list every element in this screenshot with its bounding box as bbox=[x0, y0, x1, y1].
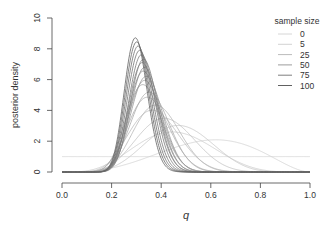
density-curve-n90 bbox=[62, 46, 310, 172]
posterior-density-chart: 0246810 0.00.20.40.60.81.0 posterior den… bbox=[0, 0, 325, 228]
y-tick-label: 4 bbox=[32, 108, 42, 113]
density-curve-n45 bbox=[62, 85, 310, 172]
x-tick-label: 0.2 bbox=[106, 190, 118, 200]
x-axis: 0.00.20.40.60.81.0 bbox=[56, 183, 316, 200]
y-tick-label: 2 bbox=[32, 139, 42, 144]
density-curve-n40 bbox=[62, 92, 310, 172]
legend-label: 5 bbox=[300, 39, 305, 49]
density-curve-n100 bbox=[62, 38, 310, 172]
x-tick-label: 0.4 bbox=[155, 190, 167, 200]
density-curve-n70 bbox=[62, 63, 310, 172]
legend-title: sample size bbox=[275, 16, 320, 26]
density-curve-n25 bbox=[62, 110, 310, 172]
legend-label: 0 bbox=[300, 29, 305, 39]
y-tick-label: 6 bbox=[32, 77, 42, 82]
density-curve-n35 bbox=[62, 97, 310, 172]
y-axis-title: posterior density bbox=[10, 61, 20, 128]
density-curve-n30 bbox=[62, 105, 310, 172]
density-curve-n75 bbox=[62, 59, 310, 172]
density-curve-n85 bbox=[62, 50, 310, 172]
legend: sample size 05255075100 bbox=[275, 16, 320, 91]
x-tick-label: 0.6 bbox=[205, 190, 217, 200]
x-tick-label: 0.8 bbox=[254, 190, 266, 200]
legend-label: 50 bbox=[300, 60, 310, 70]
density-curve-n80 bbox=[62, 55, 310, 172]
x-tick-label: 0.0 bbox=[56, 190, 68, 200]
density-curves bbox=[62, 38, 310, 172]
y-tick-label: 8 bbox=[32, 46, 42, 51]
y-tick-label: 0 bbox=[32, 169, 42, 174]
x-axis-title: q bbox=[183, 209, 190, 221]
y-axis: 0246810 bbox=[32, 13, 52, 174]
density-curve-n15 bbox=[62, 125, 310, 172]
legend-label: 100 bbox=[300, 81, 314, 91]
legend-label: 75 bbox=[300, 70, 310, 80]
density-curve-n95 bbox=[62, 42, 310, 172]
x-tick-label: 1.0 bbox=[304, 190, 316, 200]
legend-label: 25 bbox=[300, 50, 310, 60]
y-tick-label: 10 bbox=[32, 13, 42, 23]
